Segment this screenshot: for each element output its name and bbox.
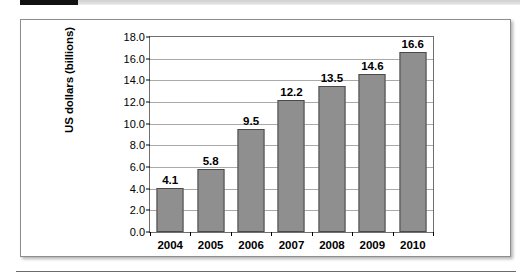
y-tick-label: 16.0	[124, 53, 145, 65]
x-tick-label: 2005	[198, 239, 224, 251]
bar-value-label: 4.1	[162, 174, 178, 186]
bar-value-label: 12.2	[280, 86, 302, 98]
x-tick-mark	[393, 232, 394, 236]
bar-group[interactable]: 4.1	[150, 37, 190, 232]
y-tick-label: 0.0	[130, 226, 145, 238]
bar[interactable]	[238, 129, 265, 232]
y-tick-label: 8.0	[130, 139, 145, 151]
bar-value-label: 14.6	[361, 60, 383, 72]
x-tick-mark	[150, 232, 151, 236]
x-tick-mark	[312, 232, 313, 236]
header-strip	[0, 0, 532, 6]
bar-value-label: 9.5	[243, 115, 259, 127]
x-tick-label: 2008	[319, 239, 345, 251]
bar[interactable]	[197, 169, 224, 232]
bar-value-label: 13.5	[321, 72, 343, 84]
x-tick-mark	[231, 232, 232, 236]
plot-area: 18.016.014.012.010.08.06.04.02.00.0 4.15…	[149, 36, 434, 233]
bar-group[interactable]: 5.8	[190, 37, 230, 232]
x-tick-label: 2006	[238, 239, 264, 251]
header-gradient-bar	[78, 0, 520, 5]
bar[interactable]	[399, 52, 426, 232]
y-tick-label: 2.0	[130, 204, 145, 216]
y-tick-label: 14.0	[124, 74, 145, 86]
x-tick-mark	[190, 232, 191, 236]
x-tick-label: 2004	[157, 239, 183, 251]
x-tick-mark	[352, 232, 353, 236]
bar-group[interactable]: 12.2	[271, 37, 311, 232]
bar-group[interactable]: 14.6	[352, 37, 392, 232]
y-tick-label: 6.0	[130, 161, 145, 173]
bar-value-label: 16.6	[402, 38, 424, 50]
bars-layer: 4.15.89.512.213.514.616.6	[150, 37, 433, 232]
bar[interactable]	[278, 100, 305, 232]
y-tick-label: 10.0	[124, 118, 145, 130]
bar-group[interactable]: 13.5	[312, 37, 352, 232]
y-tick-label: 18.0	[124, 31, 145, 43]
x-tick-label: 2009	[360, 239, 386, 251]
bar-group[interactable]: 9.5	[231, 37, 271, 232]
bar[interactable]	[157, 188, 184, 232]
x-tick-mark	[433, 232, 434, 236]
bottom-divider-rule	[16, 271, 516, 272]
bar-group[interactable]: 16.6	[393, 37, 433, 232]
bar-value-label: 5.8	[203, 155, 219, 167]
figure-frame: US dollars (billions) 18.016.014.012.010…	[20, 19, 511, 257]
bar[interactable]	[359, 74, 386, 232]
bar-chart: US dollars (billions) 18.016.014.012.010…	[21, 20, 510, 256]
x-tick-label: 2007	[279, 239, 305, 251]
x-tick-mark	[271, 232, 272, 236]
x-tick-label: 2010	[400, 239, 426, 251]
bar[interactable]	[318, 86, 345, 232]
y-axis-title: US dollars (billions)	[63, 0, 75, 170]
y-tick-label: 4.0	[130, 183, 145, 195]
y-tick-label: 12.0	[124, 96, 145, 108]
